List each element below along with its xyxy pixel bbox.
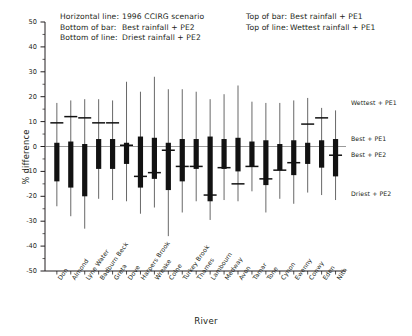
y-axis-tick-label: 10 bbox=[17, 118, 37, 126]
y-axis-tick-label: -20 bbox=[17, 192, 37, 200]
series-annotation: Best + PE1 bbox=[351, 135, 386, 142]
range-bar bbox=[277, 144, 282, 170]
range-bar bbox=[291, 140, 296, 175]
plot-area bbox=[0, 0, 412, 336]
range-bar bbox=[54, 143, 59, 182]
range-bar bbox=[235, 138, 240, 172]
series-annotation: Driest + PE2 bbox=[351, 190, 391, 197]
range-bar bbox=[208, 137, 213, 202]
range-bar bbox=[305, 143, 310, 164]
y-axis-tick-label: 50 bbox=[17, 18, 37, 26]
range-bar bbox=[194, 139, 199, 169]
x-axis-title: River bbox=[0, 316, 412, 326]
range-bar bbox=[319, 140, 324, 167]
range-bar bbox=[180, 139, 185, 181]
y-axis-tick-label: -30 bbox=[17, 217, 37, 225]
range-bar bbox=[96, 139, 101, 169]
y-axis-tick-label: 40 bbox=[17, 43, 37, 51]
range-bar bbox=[68, 142, 73, 188]
y-axis-tick-label: 0 bbox=[17, 143, 37, 151]
y-axis-tick-label: 20 bbox=[17, 93, 37, 101]
y-axis-tick-label: 30 bbox=[17, 68, 37, 76]
y-axis-tick-label: -40 bbox=[17, 242, 37, 250]
range-bar bbox=[110, 139, 115, 169]
range-bar bbox=[249, 142, 254, 167]
range-bar bbox=[333, 139, 338, 176]
range-bar bbox=[221, 139, 226, 169]
y-axis-tick-label: -50 bbox=[17, 267, 37, 275]
series-annotation: Wettest + PE1 bbox=[351, 99, 397, 106]
y-axis-tick-label: -10 bbox=[17, 167, 37, 175]
y-axis-title: % difference bbox=[21, 117, 31, 197]
range-bar bbox=[82, 144, 87, 196]
series-annotation: Best + PE2 bbox=[351, 151, 386, 158]
chart-root: Horizontal line:1996 CCIRG scenario Bott… bbox=[0, 0, 412, 336]
range-bar bbox=[138, 137, 143, 188]
